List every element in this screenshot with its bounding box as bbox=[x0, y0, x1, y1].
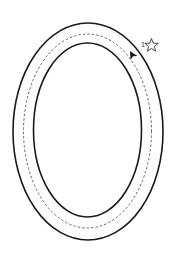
arrowhead-icon bbox=[127, 49, 138, 60]
outer-track-edge bbox=[13, 23, 163, 240]
inner-track-edge bbox=[34, 43, 142, 217]
star-outline-icon bbox=[145, 39, 158, 52]
start-label: 1 bbox=[141, 41, 145, 48]
dashed-centerline bbox=[24, 34, 152, 228]
track-diagram: 1 bbox=[0, 0, 176, 256]
